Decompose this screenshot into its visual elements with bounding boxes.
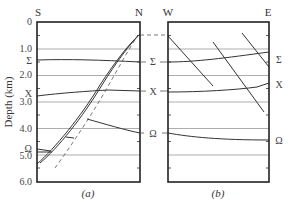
y-tick-labels: 0 1.0 2.0 3.0 4.0 5.0 6.0 — [20, 16, 33, 187]
sigma-label-a: Σ — [26, 55, 32, 66]
panel-a-main-fault-2 — [40, 34, 140, 163]
panel-a-south-label: S — [35, 6, 41, 18]
panel-a-omega-step — [66, 137, 74, 138]
panel-a-north-label: N — [135, 6, 143, 18]
tie-chi-label: X — [149, 86, 157, 97]
panel-b-fault-1 — [168, 36, 213, 86]
tie-lines: Σ X Ω — [140, 35, 168, 139]
panel-a-chi-horizon — [37, 90, 140, 96]
panel-b-east-label: E — [265, 6, 272, 18]
omega-label-a: Ω — [25, 143, 32, 154]
tick-0: 0 — [27, 16, 32, 27]
panel-a-caption: (a) — [82, 187, 95, 200]
tick-1: 1.0 — [20, 43, 33, 54]
panel-b-omega-horizon — [168, 133, 269, 140]
panel-a-dashed-fault — [55, 35, 138, 168]
panel-a-main-fault — [37, 35, 139, 164]
panel-b-fault-2 — [213, 42, 264, 112]
panel-b-chi-label: X — [275, 79, 283, 90]
panel-a: S N (a) — [35, 6, 143, 200]
seismic-section-figure: Depth (km) 0 1.0 2.0 3.0 4.0 5.0 6.0 Σ X… — [0, 0, 288, 202]
panel-b-caption: (b) — [212, 187, 225, 200]
tie-sigma-label: Σ — [150, 56, 156, 67]
tick-2: 2.0 — [20, 69, 33, 80]
panel-a-gridlines — [37, 49, 140, 155]
tick-4: 4.0 — [20, 123, 33, 134]
panel-b-west-label: W — [163, 6, 174, 18]
panel-b-chi-horizon — [168, 83, 269, 92]
panel-b: W E Σ X Ω (b) — [163, 6, 284, 200]
tick-6: 6.0 — [20, 176, 33, 187]
panel-a-sigma-horizon — [37, 60, 140, 62]
panel-b-omega-label: Ω — [275, 135, 282, 146]
panel-b-sigma-label: Σ — [276, 54, 282, 65]
panel-a-omega-horizon-upper — [37, 149, 51, 151]
chi-label-a: X — [25, 88, 33, 99]
tie-omega-label: Ω — [149, 128, 156, 139]
y-axis-label: Depth (km) — [2, 76, 15, 127]
panel-b-fault-3 — [242, 33, 269, 67]
panel-a-omega-horizon-right — [87, 119, 140, 133]
